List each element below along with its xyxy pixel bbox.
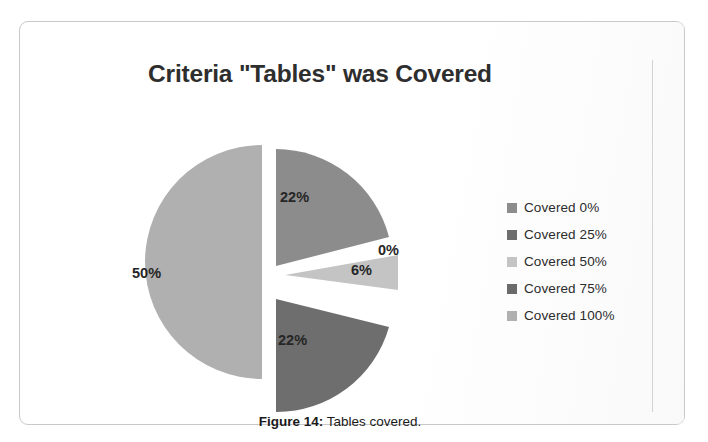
- legend-item-label: Covered 100%: [524, 308, 615, 323]
- pie-label-covered-0: 22%: [280, 189, 309, 205]
- vertical-divider-rule: [652, 60, 653, 412]
- legend-item-covered-75[interactable]: Covered 75%: [507, 275, 615, 302]
- legend-item-label: Covered 25%: [524, 227, 607, 242]
- figure-caption-text: Tables covered.: [323, 414, 421, 429]
- pie-label-covered-50: 6%: [351, 262, 372, 278]
- legend-item-covered-100[interactable]: Covered 100%: [507, 302, 615, 329]
- legend-swatch-icon: [507, 284, 517, 294]
- legend-item-covered-50[interactable]: Covered 50%: [507, 248, 615, 275]
- legend-item-label: Covered 0%: [524, 200, 599, 215]
- legend-item-covered-0[interactable]: Covered 0%: [507, 194, 615, 221]
- legend-swatch-icon: [507, 203, 517, 213]
- pie-label-covered-75: 0%: [378, 242, 399, 258]
- pie-slice-covered-100[interactable]: [145, 145, 262, 379]
- chart-title: Criteria "Tables" was Covered: [60, 60, 580, 88]
- legend-swatch-icon: [507, 311, 517, 321]
- figure-caption-prefix: Figure 14:: [259, 414, 324, 429]
- figure-caption: Figure 14: Tables covered.: [60, 414, 620, 429]
- legend-swatch-icon: [507, 257, 517, 267]
- pie-slice-covered-50[interactable]: [285, 255, 398, 290]
- pie-label-covered-25: 22%: [278, 332, 307, 348]
- legend-item-label: Covered 75%: [524, 281, 607, 296]
- figure-frame: Criteria "Tables" was Covered 50% 22% 6%…: [19, 21, 685, 425]
- pie-chart-plot-area: 50% 22% 6% 0% 22%: [80, 127, 480, 412]
- pie-label-covered-100: 50%: [132, 265, 161, 281]
- pie-slice-covered-0[interactable]: [276, 149, 389, 266]
- chart-legend: Covered 0% Covered 25% Covered 50% Cover…: [507, 194, 615, 329]
- pie-slice-covered-25[interactable]: [276, 299, 389, 412]
- legend-item-covered-25[interactable]: Covered 25%: [507, 221, 615, 248]
- legend-swatch-icon: [507, 230, 517, 240]
- legend-item-label: Covered 50%: [524, 254, 607, 269]
